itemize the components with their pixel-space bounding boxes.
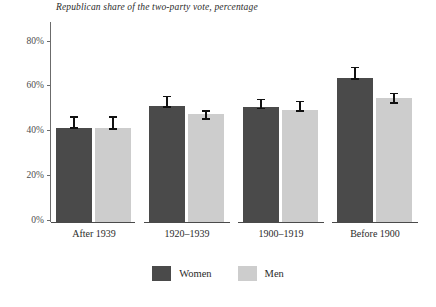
y-tick-mark-60 [47, 85, 51, 86]
errorbar-women-1920-1939 [149, 96, 185, 118]
plot-area: 80% 60% 40% 20% 0% After 1939 [0, 0, 436, 307]
bar-group-1920-1939 [149, 22, 225, 222]
y-tick-label-40: 40% [10, 125, 44, 135]
bar-men-after-1939[interactable] [95, 128, 131, 222]
y-tick-label-0: 0% [10, 215, 44, 225]
legend-label-women: Women [179, 268, 211, 279]
errorbar-men-after-1939 [95, 116, 131, 140]
legend-swatch-women-icon [152, 266, 171, 281]
bar-group-before-1900 [337, 22, 413, 222]
y-tick-mark-20 [47, 175, 51, 176]
y-tick-mark-0 [47, 220, 51, 221]
x-group-label-1920-1939: 1920–1939 [147, 228, 227, 239]
errorbar-women-1900-1919 [243, 99, 279, 119]
bar-men-1900-1919[interactable] [282, 110, 318, 223]
y-tick-label-80: 80% [10, 36, 44, 46]
errorbar-women-after-1939 [56, 116, 92, 140]
bar-women-1920-1939[interactable] [149, 106, 185, 222]
bar-men-before-1900[interactable] [376, 98, 412, 223]
x-axis-segment-1 [51, 222, 135, 223]
chart-legend: Women Men [0, 266, 436, 281]
x-group-label-before-1900: Before 1900 [335, 228, 415, 239]
x-group-label-after-1939: After 1939 [54, 228, 134, 239]
bar-women-1900-1919[interactable] [243, 107, 279, 222]
bar-group-after-1939 [56, 22, 132, 222]
legend-item-men[interactable]: Men [238, 266, 284, 281]
errorbar-men-1920-1939 [188, 110, 224, 130]
bar-women-after-1939[interactable] [56, 128, 92, 222]
chart-container: Republican share of the two-party vote, … [0, 0, 436, 307]
errorbar-women-before-1900 [337, 67, 373, 89]
x-axis-segment-2 [144, 222, 230, 223]
legend-label-men: Men [265, 268, 284, 279]
y-tick-mark-40 [47, 130, 51, 131]
legend-item-women[interactable]: Women [152, 266, 211, 281]
x-axis-segment-4 [332, 222, 418, 223]
bar-men-1920-1939[interactable] [188, 114, 224, 222]
errorbar-men-1900-1919 [282, 101, 318, 121]
bar-women-before-1900[interactable] [337, 78, 373, 222]
y-tick-mark-80 [47, 41, 51, 42]
x-axis-segment-3 [238, 222, 324, 223]
bar-group-1900-1919 [243, 22, 319, 222]
y-tick-label-20: 20% [10, 170, 44, 180]
y-tick-label-60: 60% [10, 80, 44, 90]
legend-swatch-men-icon [238, 266, 257, 281]
y-axis-line [50, 22, 51, 222]
errorbar-men-before-1900 [376, 93, 412, 113]
x-group-label-1900-1919: 1900–1919 [241, 228, 321, 239]
